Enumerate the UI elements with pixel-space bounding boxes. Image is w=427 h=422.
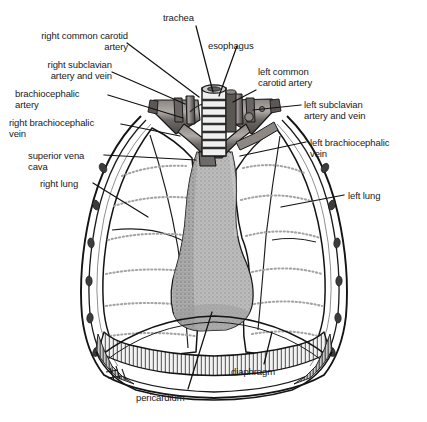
label-left-subclavian-artery-and-vein: left subclavian artery and vein [304,99,390,122]
label-brachiocephalic-artery: brachiocephalic artery [15,88,109,111]
label-pericardium: pericardium [136,392,185,403]
label-esophagus: esophagus [208,40,254,51]
leader-trachea [196,26,213,92]
anatomy-diagram: trachea esophagus right common carotid a… [0,0,427,422]
label-left-lung: left lung [348,190,380,201]
leader-right-common-carotid-artery [127,43,199,97]
label-superior-vena-cava: superior vena cava [28,150,104,173]
label-right-brachiocephalic-vein: right brachiocephalic vein [9,117,123,140]
label-trachea: trachea [163,12,194,23]
label-left-brachiocephalic-vein: left brachiocephalic vein [310,137,422,160]
trachea [202,85,226,156]
label-right-subclavian-artery-and-vein: right subclavian artery and vein [24,59,112,82]
leader-esophagus [219,46,237,96]
label-right-common-carotid-artery: right common carotid artery [24,30,128,53]
label-diaphragm: diaphragm [231,366,275,377]
label-right-lung: right lung [40,178,78,189]
esophagus [226,90,236,132]
label-left-common-carotid-artery: left common carotid artery [258,66,336,89]
